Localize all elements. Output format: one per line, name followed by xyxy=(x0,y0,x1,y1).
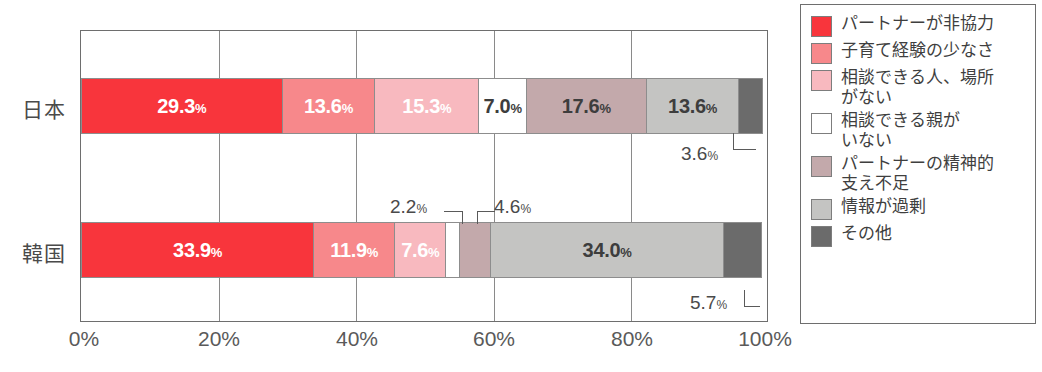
callout-japan-other: 3.6% xyxy=(681,143,718,165)
segment-label: 13.6% xyxy=(304,95,353,118)
legend-label: 相談できる親が いない xyxy=(841,110,960,150)
segment-label: 13.6% xyxy=(668,95,717,118)
segment-jp-other xyxy=(738,78,763,134)
segment-label: 17.6% xyxy=(562,95,611,118)
segment-jp-partner-uncooperative: 29.3% xyxy=(81,78,283,134)
xtick-0: 0% xyxy=(69,327,99,351)
legend-item-no-one-to-consult[interactable]: 相談できる人、場所 がない xyxy=(811,67,1029,107)
callout-leader-korea-other xyxy=(744,290,760,307)
legend-item-little-childcare-experience[interactable]: 子育て経験の少なさ xyxy=(811,40,1029,64)
segment-kr-no-parent-to-consult xyxy=(445,222,460,278)
legend-swatch-icon xyxy=(811,113,832,134)
legend-item-other[interactable]: その他 xyxy=(811,223,1029,247)
segment-kr-too-much-information: 34.0% xyxy=(490,222,724,278)
legend-label: 情報が過剰 xyxy=(841,196,926,216)
callout-korea-partner-support: 4.6% xyxy=(494,196,531,218)
legend-swatch-icon xyxy=(811,70,832,91)
callout-korea-other: 5.7% xyxy=(690,292,727,314)
xtick-20: 20% xyxy=(198,327,240,351)
legend-swatch-icon xyxy=(811,43,832,64)
legend-swatch-icon xyxy=(811,156,832,177)
callout-leader-korea-no-parent xyxy=(444,211,463,224)
legend-label: 子育て経験の少なさ xyxy=(841,40,994,60)
segment-kr-lack-of-partner-emotional-support xyxy=(459,222,491,278)
segment-label: 11.9% xyxy=(330,239,378,262)
segment-jp-no-one-to-consult: 15.3% xyxy=(374,78,479,134)
segment-jp-lack-of-partner-emotional-support: 17.6% xyxy=(526,78,647,134)
segment-label: 15.3% xyxy=(402,95,451,118)
bar-korea: 33.9% 11.9% 7.6% 34.0% xyxy=(81,222,769,278)
segment-kr-partner-uncooperative: 33.9% xyxy=(81,222,314,278)
legend-label: パートナーが非協力 xyxy=(841,13,994,33)
callout-leader-korea-partner-support xyxy=(477,211,495,224)
legend: パートナーが非協力 子育て経験の少なさ 相談できる人、場所 がない 相談できる親… xyxy=(800,4,1036,324)
segment-label: 34.0% xyxy=(583,239,632,262)
xtick-40: 40% xyxy=(336,327,378,351)
category-label-korea: 韓国 xyxy=(22,237,66,267)
legend-label: その他 xyxy=(841,223,892,243)
xtick-60: 60% xyxy=(473,327,515,351)
callout-korea-no-parent: 2.2% xyxy=(390,196,427,218)
legend-item-no-parent-to-consult[interactable]: 相談できる親が いない xyxy=(811,110,1029,150)
category-label-japan: 日本 xyxy=(22,93,66,123)
segment-label: 7.0% xyxy=(483,95,521,118)
plot-area: 29.3% 13.6% 15.3% 7.0% 17.6% 13.6% 33.9% xyxy=(80,30,768,322)
segment-jp-little-childcare-experience: 13.6% xyxy=(282,78,376,134)
callout-leader-japan-other xyxy=(733,133,756,150)
legend-swatch-icon xyxy=(811,199,832,220)
segment-jp-too-much-information: 13.6% xyxy=(646,78,740,134)
segment-label: 29.3% xyxy=(157,95,206,118)
legend-label: パートナーの精神的 支え不足 xyxy=(841,153,994,193)
legend-item-partner-uncooperative[interactable]: パートナーが非協力 xyxy=(811,13,1029,37)
stacked-bar-chart: 29.3% 13.6% 15.3% 7.0% 17.6% 13.6% 33.9% xyxy=(0,0,1042,372)
segment-kr-no-one-to-consult: 7.6% xyxy=(394,222,446,278)
legend-item-too-much-information[interactable]: 情報が過剰 xyxy=(811,196,1029,220)
legend-item-lack-of-partner-emotional-support[interactable]: パートナーの精神的 支え不足 xyxy=(811,153,1029,193)
segment-kr-little-childcare-experience: 11.9% xyxy=(313,222,395,278)
segment-label: 7.6% xyxy=(401,239,439,262)
segment-jp-no-parent-to-consult: 7.0% xyxy=(478,78,526,134)
xtick-100: 100% xyxy=(738,327,792,351)
bar-japan: 29.3% 13.6% 15.3% 7.0% 17.6% 13.6% xyxy=(81,78,769,134)
segment-kr-other xyxy=(723,222,762,278)
xtick-80: 80% xyxy=(611,327,653,351)
segment-label: 33.9% xyxy=(173,239,222,262)
legend-label: 相談できる人、場所 がない xyxy=(841,67,994,107)
legend-swatch-icon xyxy=(811,226,832,247)
legend-swatch-icon xyxy=(811,16,832,37)
